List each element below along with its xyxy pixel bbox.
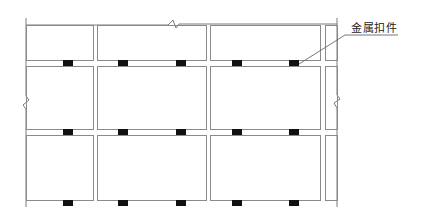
panel-r2-c3 [211,67,321,130]
metal-fastener-clip-icon [63,200,73,206]
metal-fastener-clips [63,60,299,206]
metal-fastener-clip-icon [176,129,186,135]
panel-r3-c1 [27,136,94,201]
panel-grid [27,26,338,201]
metal-fastener-clip-icon [176,200,186,206]
metal-fastener-clip-icon [118,129,128,135]
panel-r2-c1 [27,67,94,130]
panel-r3-c2 [98,136,207,201]
metal-fastener-label: 金属扣件 [351,19,397,35]
panel-r3-c4 [326,136,338,201]
metal-fastener-clip-icon [176,60,186,66]
leader-line [299,35,398,64]
panel-r1-c2 [98,26,207,61]
top-break-line [26,20,337,28]
metal-fastener-clip-icon [289,60,299,66]
metal-fastener-clip-icon [289,129,299,135]
metal-fastener-clip-icon [232,60,242,66]
metal-fastener-clip-icon [63,129,73,135]
panel-r2-c4 [326,67,338,130]
panel-r1-c1 [27,26,94,61]
metal-fastener-clip-icon [118,60,128,66]
panel-r1-c3 [211,26,321,61]
panel-r2-c2 [98,67,207,130]
metal-fastener-clip-icon [289,200,299,206]
outer-frame [23,18,340,207]
panel-r3-c3 [211,136,321,201]
metal-fastener-clip-icon [232,200,242,206]
metal-fastener-clip-icon [232,129,242,135]
metal-fastener-clip-icon [118,200,128,206]
metal-fastener-clip-icon [63,60,73,66]
label-leader-line [299,35,398,64]
